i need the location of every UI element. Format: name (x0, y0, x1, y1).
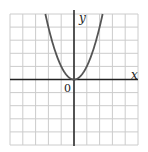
coordinate-plane (0, 0, 148, 152)
x-axis-label: x (131, 69, 138, 81)
y-axis-label: y (79, 12, 86, 24)
origin-label: 0 (64, 83, 71, 94)
axes (10, 10, 138, 146)
